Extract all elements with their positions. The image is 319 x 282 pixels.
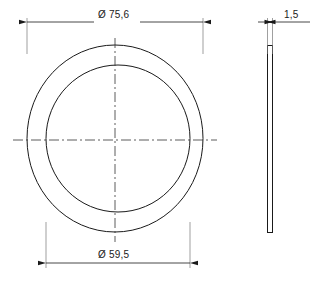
thickness-label: 1,5	[284, 10, 299, 20]
drawing-svg	[0, 0, 319, 282]
inner-circle	[46, 65, 190, 212]
dimension-inner-diameter	[46, 222, 190, 268]
outer-diameter-label: Ø 75,6	[98, 10, 129, 20]
side-view	[268, 46, 273, 233]
side-profile-rect	[268, 46, 273, 233]
dimension-outer-diameter	[27, 18, 203, 54]
technical-drawing-canvas: Ø 75,6 Ø 59,5 1,5	[0, 0, 319, 282]
dimension-thickness	[258, 18, 310, 54]
inner-diameter-label: Ø 59,5	[98, 250, 129, 260]
centerlines	[13, 38, 217, 242]
